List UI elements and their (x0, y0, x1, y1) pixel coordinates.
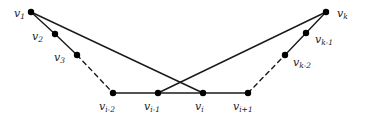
vertex-label-v1: v1 (14, 8, 25, 21)
graph-edge-vk-1-vk (306, 12, 326, 33)
vertex-label-subscript: i-2 (105, 105, 115, 114)
vertex-label-subscript: 3 (60, 56, 65, 65)
graph-edge-v3-vi-2 (77, 55, 113, 93)
vertex-label-subscript: k-2 (299, 61, 311, 70)
graph-node-vk-1 (303, 30, 309, 36)
graph-edge-vk-vi-1 (158, 12, 326, 93)
vertex-label-subscript: k (343, 12, 348, 21)
graph-node-v1 (28, 9, 34, 15)
vertex-label-subscript: i-1 (150, 105, 160, 114)
vertex-label-vi-1: vi-1 (144, 101, 160, 114)
graph-node-vi+1 (245, 90, 251, 96)
vertex-label-subscript: i (201, 105, 203, 114)
graph-node-vi-2 (110, 90, 116, 96)
graph-edge-vk-2-vk-1 (285, 33, 306, 55)
vertex-label-subscript: 2 (38, 35, 43, 44)
graph-node-vk (323, 9, 329, 15)
vertex-label-subscript: 1 (20, 12, 25, 21)
vertex-label-v3: v3 (54, 52, 65, 65)
vertex-label-vi-2: vi-2 (99, 101, 115, 114)
graph-node-vi-1 (155, 90, 161, 96)
graph-node-v2 (52, 31, 58, 37)
graph-node-vk-2 (282, 52, 288, 58)
graph-figure: v1v2v3vi-2vi-1vivi+1vk-2vk-1vk (0, 0, 365, 126)
graph-edge-vi+1-vk-2 (248, 55, 285, 93)
graph-node-v3 (74, 52, 80, 58)
graph-node-vi (200, 90, 206, 96)
vertex-label-subscript: k-1 (321, 38, 333, 47)
vertex-label-vi+1: vi+1 (233, 101, 253, 114)
vertex-label-vk-2: vk-2 (293, 57, 311, 70)
vertex-label-subscript: i+1 (239, 105, 252, 114)
vertex-label-v2: v2 (32, 31, 43, 44)
vertex-label-vk: vk (337, 8, 348, 21)
vertex-label-vk-1: vk-1 (315, 34, 333, 47)
vertex-label-vi: vi (195, 101, 204, 114)
